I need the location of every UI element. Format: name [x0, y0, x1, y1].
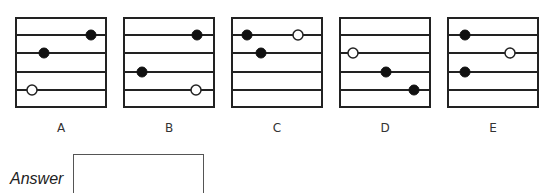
- filled-dot-icon: [137, 67, 147, 77]
- dot-line-figure: [447, 17, 539, 108]
- filled-dot-icon: [460, 30, 470, 40]
- answer-input[interactable]: [73, 154, 204, 193]
- option-panel-a[interactable]: [15, 17, 107, 108]
- option-label-e: E: [447, 121, 539, 135]
- option-panel-c[interactable]: [231, 17, 323, 108]
- answer-label: Answer: [10, 170, 63, 188]
- open-dot-icon: [191, 85, 201, 95]
- filled-dot-icon: [242, 30, 252, 40]
- option-label-b: B: [123, 121, 215, 135]
- filled-dot-icon: [39, 48, 49, 58]
- dot-line-figure: [123, 17, 215, 108]
- open-dot-icon: [27, 85, 37, 95]
- option-label-c: C: [231, 121, 323, 135]
- filled-dot-icon: [256, 48, 266, 58]
- option-panel-b[interactable]: [123, 17, 215, 108]
- filled-dot-icon: [381, 67, 391, 77]
- open-dot-icon: [505, 48, 515, 58]
- filled-dot-icon: [460, 67, 470, 77]
- option-panel-e[interactable]: [447, 17, 539, 108]
- filled-dot-icon: [86, 30, 96, 40]
- dot-line-figure: [231, 17, 323, 108]
- option-label-d: D: [339, 121, 431, 135]
- dot-line-figure: [15, 17, 107, 108]
- option-label-a: A: [15, 121, 107, 135]
- dot-line-figure: [339, 17, 431, 108]
- filled-dot-icon: [409, 85, 419, 95]
- open-dot-icon: [293, 30, 303, 40]
- filled-dot-icon: [192, 30, 202, 40]
- option-panel-d[interactable]: [339, 17, 431, 108]
- open-dot-icon: [348, 48, 358, 58]
